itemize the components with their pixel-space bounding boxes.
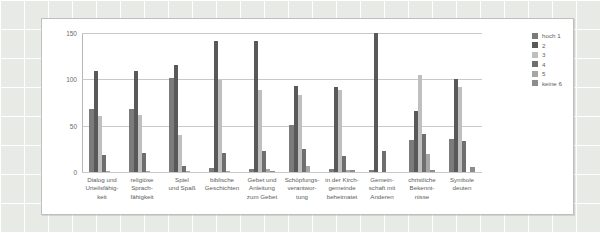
bar-group xyxy=(82,33,122,172)
category-label: Dialog und Urteilsfähig- keit xyxy=(82,176,122,201)
legend-label: hoch 1 xyxy=(542,32,561,39)
bar[interactable] xyxy=(430,170,434,172)
bar-group xyxy=(362,33,402,172)
category-label: Gebet und Anleitung zum Gebet xyxy=(242,176,282,201)
legend-item[interactable]: 4 xyxy=(532,61,562,68)
legend-item[interactable]: 2 xyxy=(532,42,562,49)
legend-label: 4 xyxy=(542,61,545,68)
bar[interactable] xyxy=(142,153,146,172)
bar-group xyxy=(242,33,282,172)
y-tick-150: 150 xyxy=(66,30,77,37)
bar[interactable] xyxy=(382,151,386,172)
bar[interactable] xyxy=(222,153,226,172)
legend-item[interactable]: 5 xyxy=(532,70,562,77)
category-label: religiöse Sprach- fähigkeit xyxy=(122,176,162,201)
category-label: Gemein- schaft mit Anderen xyxy=(362,176,402,201)
category-label: christliche Bekennt- nisse xyxy=(402,176,442,201)
legend-item[interactable]: hoch 1 xyxy=(532,32,562,39)
legend-swatch-icon xyxy=(532,52,538,58)
bar[interactable] xyxy=(270,171,274,172)
y-tick-0: 0 xyxy=(73,169,77,176)
legend-swatch-icon xyxy=(532,80,538,86)
plot-area: 050100150 Dialog und Urteilsfähig- keitr… xyxy=(82,33,482,191)
legend-item[interactable]: keine 6 xyxy=(532,80,562,87)
y-tick-50: 50 xyxy=(70,122,77,129)
bar-group xyxy=(202,33,242,172)
bar[interactable] xyxy=(146,171,150,172)
legend-item[interactable]: 3 xyxy=(532,51,562,58)
bar[interactable] xyxy=(470,167,474,172)
legend-swatch-icon xyxy=(532,33,538,39)
x-axis-category-labels: Dialog und Urteilsfähig- keitreligiöse S… xyxy=(82,176,482,201)
bar[interactable] xyxy=(374,33,378,172)
legend-swatch-icon xyxy=(532,42,538,48)
bar[interactable] xyxy=(350,170,354,172)
category-label: in der Kirch- gemeinde beheimatet xyxy=(322,176,362,201)
legend-label: 3 xyxy=(542,51,545,58)
category-label: biblische Geschichten xyxy=(202,176,242,201)
bar-group xyxy=(442,33,482,172)
chart-legend: hoch 12345keine 6 xyxy=(532,32,562,90)
legend-label: 5 xyxy=(542,70,545,77)
legend-label: 2 xyxy=(542,42,545,49)
bar-group xyxy=(162,33,202,172)
bar[interactable] xyxy=(186,171,190,172)
bar[interactable] xyxy=(106,171,110,172)
bar[interactable] xyxy=(462,141,466,172)
gridline-0 xyxy=(82,172,482,173)
bar[interactable] xyxy=(226,171,230,172)
y-tick-100: 100 xyxy=(66,76,77,83)
bar[interactable] xyxy=(306,166,310,172)
bar-group xyxy=(402,33,442,172)
legend-swatch-icon xyxy=(532,61,538,67)
category-label: Symbole deuten xyxy=(442,176,482,201)
category-label: Schöpfungs- verantwor- tung xyxy=(282,176,322,201)
legend-swatch-icon xyxy=(532,71,538,77)
bars-layer xyxy=(82,33,482,172)
chart-object[interactable]: 050100150 Dialog und Urteilsfähig- keitr… xyxy=(41,18,574,215)
legend-label: keine 6 xyxy=(542,80,562,87)
bar-group xyxy=(322,33,362,172)
category-label: Spiel und Spaß xyxy=(162,176,202,201)
bar-group xyxy=(122,33,162,172)
bar[interactable] xyxy=(102,155,106,172)
bar-group xyxy=(282,33,322,172)
